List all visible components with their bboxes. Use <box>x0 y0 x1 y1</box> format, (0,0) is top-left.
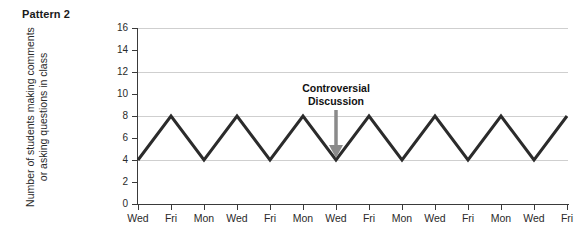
annotation-arrow <box>0 0 588 236</box>
chart-figure: Pattern 2 Number of students making comm… <box>0 0 588 236</box>
annotation-line-1: Controversial <box>261 82 411 95</box>
annotation-controversial-discussion: Controversial Discussion <box>261 82 411 108</box>
down-arrow-icon <box>329 110 343 158</box>
annotation-line-2: Discussion <box>261 95 411 108</box>
